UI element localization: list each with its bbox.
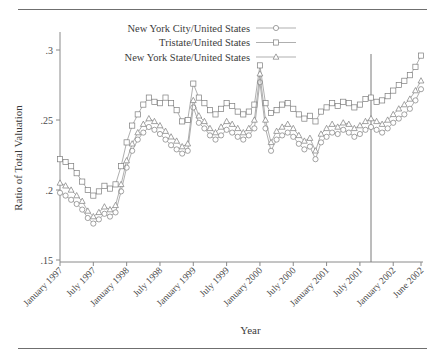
data-point-triangle: [246, 125, 252, 130]
data-point-square: [91, 193, 96, 198]
data-point-circle: [273, 25, 278, 30]
data-point-triangle: [273, 54, 279, 59]
data-point-circle: [96, 217, 101, 222]
data-point-triangle: [274, 128, 280, 133]
series-3: [57, 71, 424, 219]
chart-svg: .3.25.2.15Ratio of Total ValuationJanuar…: [0, 0, 441, 362]
data-point-square: [374, 99, 379, 104]
data-point-circle: [246, 133, 251, 138]
data-point-triangle: [235, 125, 241, 130]
data-point-triangle: [146, 116, 152, 121]
data-point-circle: [324, 134, 329, 139]
data-point-circle: [391, 120, 396, 125]
data-point-triangle: [379, 121, 385, 126]
data-point-square: [218, 106, 223, 111]
legend-entry: New York State/United States: [125, 52, 296, 63]
data-point-circle: [274, 137, 279, 142]
y-axis-title: Ratio of Total Valuation: [12, 105, 24, 211]
data-point-square: [273, 40, 278, 45]
data-point-triangle: [313, 148, 319, 153]
data-point-circle: [413, 98, 418, 103]
data-point-square: [357, 102, 362, 107]
data-point-triangle: [196, 113, 202, 118]
data-point-square: [391, 88, 396, 93]
series-1: [57, 80, 423, 227]
x-axis-tick-label: July 1997: [64, 265, 98, 299]
data-point-square: [130, 123, 135, 128]
series-line: [60, 82, 421, 223]
data-point-triangle: [129, 141, 135, 146]
data-point-square: [207, 108, 212, 113]
x-axis-tick-label: June 2002: [391, 265, 426, 300]
data-point-circle: [291, 134, 296, 139]
data-point-square: [330, 101, 335, 106]
y-axis-tick-label: .15: [41, 255, 54, 266]
data-point-square: [352, 105, 357, 110]
data-point-square: [152, 99, 157, 104]
x-axis-tick-label: January 1997: [21, 265, 64, 308]
data-point-circle: [346, 130, 351, 135]
data-point-circle: [102, 211, 107, 216]
data-point-square: [363, 96, 368, 101]
data-point-square: [291, 106, 296, 111]
data-point-square: [118, 164, 123, 169]
data-point-square: [85, 187, 90, 192]
data-point-square: [185, 117, 190, 122]
data-point-triangle: [407, 96, 413, 101]
data-point-circle: [152, 127, 157, 132]
data-point-triangle: [351, 125, 357, 130]
data-point-circle: [407, 106, 412, 111]
data-point-triangle: [174, 138, 180, 143]
data-point-square: [268, 110, 273, 115]
data-point-square: [102, 183, 107, 188]
data-point-square: [196, 95, 201, 100]
legend-label: New York State/United States: [125, 52, 250, 63]
data-point-triangle: [102, 204, 108, 209]
data-point-square: [407, 73, 412, 78]
legend-entry: New York City/United States: [127, 23, 296, 34]
data-point-circle: [285, 130, 290, 135]
data-point-triangle: [135, 130, 141, 135]
data-point-square: [402, 78, 407, 83]
data-point-triangle: [57, 180, 63, 185]
data-point-square: [113, 182, 118, 187]
data-point-triangle: [290, 125, 296, 130]
data-point-circle: [418, 87, 423, 92]
data-point-circle: [352, 134, 357, 139]
data-point-triangle: [329, 121, 335, 126]
legend-label: Tristate/United States: [159, 37, 250, 48]
data-point-circle: [146, 124, 151, 129]
data-point-square: [241, 112, 246, 117]
data-point-circle: [357, 131, 362, 136]
data-point-square: [280, 102, 285, 107]
data-point-square: [296, 112, 301, 117]
data-point-circle: [180, 151, 185, 156]
data-point-square: [346, 101, 351, 106]
legend-entry: Tristate/United States: [159, 37, 296, 48]
data-point-square: [174, 108, 179, 113]
data-point-circle: [74, 201, 79, 206]
data-point-square: [135, 112, 140, 117]
data-point-square: [257, 63, 262, 68]
data-point-circle: [80, 207, 85, 212]
data-point-triangle: [374, 118, 380, 123]
data-point-square: [413, 64, 418, 69]
series-line: [60, 74, 421, 217]
data-point-circle: [107, 214, 112, 219]
data-point-square: [69, 164, 74, 169]
data-point-circle: [224, 127, 229, 132]
data-point-square: [246, 109, 251, 114]
data-point-circle: [380, 130, 385, 135]
data-point-triangle: [229, 121, 235, 126]
data-point-circle: [385, 126, 390, 131]
data-point-square: [380, 98, 385, 103]
plot-axes: [60, 32, 423, 262]
data-point-square: [307, 113, 312, 118]
data-point-circle: [302, 147, 307, 152]
data-point-square: [180, 119, 185, 124]
data-point-square: [96, 189, 101, 194]
data-point-triangle: [107, 207, 113, 212]
data-point-square: [285, 101, 290, 106]
x-axis-tick-label: July 1998: [131, 265, 165, 299]
data-point-square: [157, 101, 162, 106]
